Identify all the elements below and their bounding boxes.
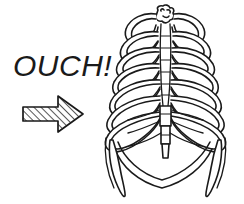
xiphoid-process <box>160 106 171 158</box>
manubrium <box>156 5 174 23</box>
illustration-canvas: OUCH! <box>0 0 244 204</box>
ribs-right <box>171 32 226 152</box>
ribcage-illustration <box>88 2 244 202</box>
ribs-left <box>105 32 160 152</box>
pointer-arrow <box>18 92 88 137</box>
sternum-body <box>160 24 171 106</box>
ribcage-drawing <box>105 5 225 197</box>
arrow-body-icon <box>23 96 83 132</box>
